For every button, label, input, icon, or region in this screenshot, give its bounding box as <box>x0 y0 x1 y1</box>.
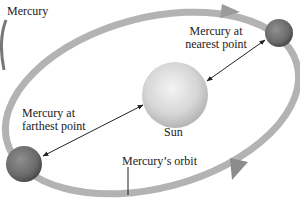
farthest-label-line2: farthest point <box>22 120 86 133</box>
farthest-point-label: Mercury at farthest point <box>22 107 86 133</box>
mercury-nearest <box>265 19 293 47</box>
nearest-point-label: Mercury at nearest point <box>172 25 260 51</box>
orbit-direction-arrow-bottom <box>230 158 248 180</box>
title-label: Mercury <box>7 5 48 18</box>
orbit-label: Mercury’s orbit <box>122 155 197 168</box>
mercury-farthest <box>6 146 42 182</box>
sun <box>142 62 208 128</box>
nearest-label-line2: nearest point <box>172 38 260 51</box>
sun-label: Sun <box>164 126 183 139</box>
